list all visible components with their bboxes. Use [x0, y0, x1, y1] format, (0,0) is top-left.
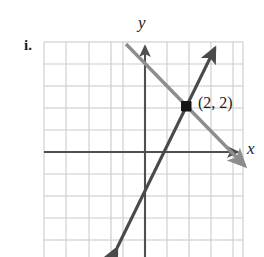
x-axis-label: x — [247, 140, 255, 157]
intersection-point-label: (2, 2) — [198, 95, 233, 111]
grid-minor — [44, 42, 243, 257]
graph-figure: i. y x (2, 2) — [0, 0, 264, 257]
intersection-point-marker — [181, 101, 192, 112]
axes — [44, 46, 238, 257]
grid-major — [44, 42, 243, 257]
coordinate-plane-svg — [0, 0, 264, 257]
y-axis-label: y — [138, 14, 146, 31]
item-label: i. — [24, 38, 32, 53]
